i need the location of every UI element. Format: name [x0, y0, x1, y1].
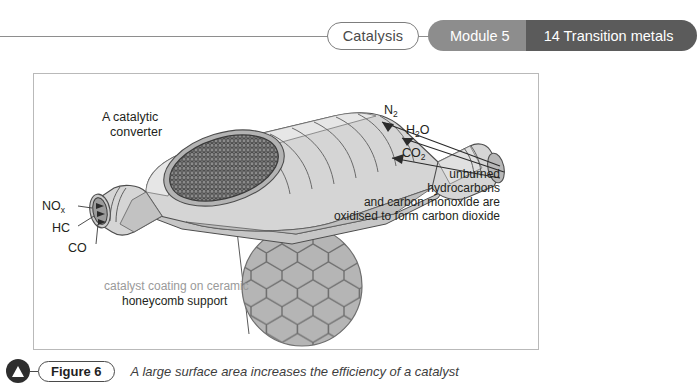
topic-pill: Catalysis [327, 22, 419, 50]
converter-title-line2: converter [110, 125, 162, 139]
converter-title-line1: A catalytic [102, 110, 158, 124]
inlet-label-co: CO [68, 241, 87, 255]
caption-connector [30, 371, 38, 372]
reaction-note-line-1: hydrocarbons [427, 181, 500, 195]
page-header: Catalysis Module 5 14 Transition metals [0, 0, 697, 58]
unit-label: 14 Transition metals [544, 28, 674, 44]
triangle-glyph [12, 366, 24, 377]
support-note-line-1: honeycomb support [122, 294, 228, 308]
outlet-label-n2: N2 [384, 103, 398, 119]
support-note-line-0: catalyst coating on ceramic [104, 279, 249, 293]
topic-label: Catalysis [343, 28, 404, 44]
header-rule [0, 36, 330, 37]
catalytic-converter-diagram: A catalytic converter NOx HC CO N2 [34, 74, 538, 349]
module-label: Module 5 [450, 28, 510, 44]
inlet-label-hc: HC [52, 221, 70, 235]
reaction-note-line-3: oxidised to form carbon dioxide [334, 209, 500, 223]
module-segment: Module 5 [428, 20, 526, 51]
figure-number-label: Figure 6 [51, 364, 102, 379]
module-breadcrumb: Module 5 14 Transition metals [428, 20, 697, 51]
figure-number-pill: Figure 6 [38, 361, 115, 382]
inlet-label-nox: NOx [42, 199, 66, 215]
reaction-note-line-2: and carbon monoxide are [364, 195, 500, 209]
outlet-label-h2o: H2O [406, 123, 430, 139]
support-note: catalyst coating on ceramic honeycomb su… [104, 279, 249, 308]
triangle-up-icon [6, 359, 30, 383]
inlet-label-group: NOx HC CO [42, 199, 87, 255]
caption-text: A large surface area increases the effic… [131, 364, 459, 379]
reaction-note-line-0: unburned [449, 167, 500, 181]
unit-segment: 14 Transition metals [526, 20, 697, 51]
figure-caption: Figure 6 A large surface area increases … [6, 358, 459, 384]
figure-frame: A catalytic converter NOx HC CO N2 [33, 73, 539, 350]
